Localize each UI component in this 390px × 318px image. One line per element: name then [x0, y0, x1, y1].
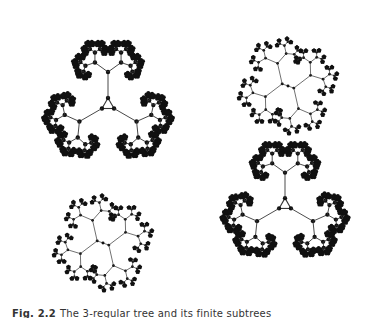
background	[0, 0, 390, 318]
caption-label: Fig. 2.2	[12, 308, 56, 318]
tree-diagram	[0, 0, 390, 318]
caption-text: The 3-regular tree and its finite subtre…	[60, 308, 271, 318]
figure-caption: Fig. 2.2The 3-regular tree and its finit…	[12, 308, 382, 318]
